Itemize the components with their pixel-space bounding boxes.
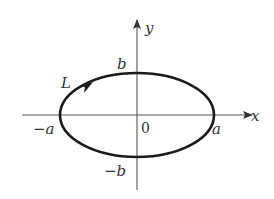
neg-a-label: −a [33, 120, 55, 138]
origin-label: 0 [141, 120, 150, 136]
neg-b-label: −b [104, 162, 126, 180]
y-axis-label: y [144, 19, 154, 37]
b-label: b [117, 55, 127, 73]
x-axis-label: x [251, 107, 260, 125]
a-label: a [212, 120, 221, 138]
ellipse-diagram: y x 0 b −b a −a L [0, 0, 274, 199]
curve-label-L: L [60, 74, 71, 92]
